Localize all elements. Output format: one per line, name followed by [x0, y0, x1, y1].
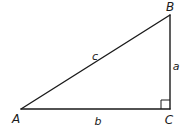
side-label-a: a	[173, 61, 180, 72]
vertex-label-b: B	[166, 1, 174, 13]
vertex-label-a: A	[12, 113, 20, 125]
side-label-b: b	[95, 116, 102, 127]
right-angle-marker-icon	[161, 100, 170, 109]
vertex-label-c: C	[165, 114, 173, 126]
side-label-c: c	[92, 51, 98, 62]
